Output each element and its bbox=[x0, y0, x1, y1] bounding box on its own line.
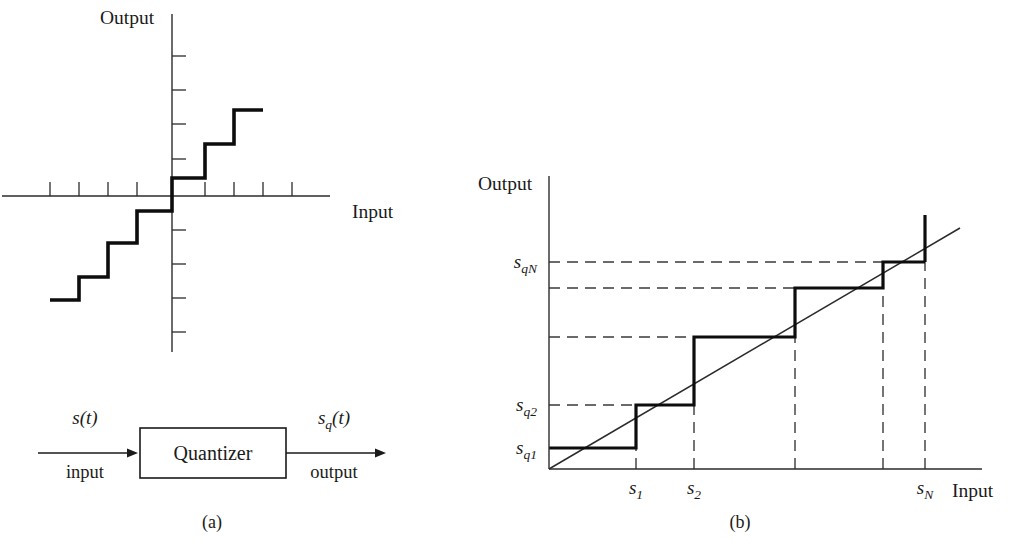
input-arrowhead-icon bbox=[127, 449, 138, 458]
panel-a-y-axis-label: Output bbox=[100, 7, 155, 28]
input-signal-base: s bbox=[72, 407, 79, 428]
panel-b-y-label-0-base: s bbox=[516, 437, 523, 458]
panel-a-y-ticks bbox=[172, 56, 186, 332]
panel-b-y-label-0-subscript: q1 bbox=[524, 447, 538, 462]
panel-b-identity-line bbox=[549, 228, 960, 469]
input-signal-rest: (t) bbox=[80, 407, 98, 429]
panel-b-y-tick-labels: sq1sq2sqN bbox=[514, 251, 538, 462]
panel-b-horizontal-dashed-lines bbox=[549, 262, 925, 405]
output-signal-label: sq(t) bbox=[318, 407, 350, 432]
figure-root: Output Input Quantizer s(t) input sq(t) … bbox=[0, 0, 1027, 547]
panel-b-x-label-0-subscript: 1 bbox=[636, 487, 643, 502]
panel-b-y-label-0: sq1 bbox=[516, 437, 537, 462]
panel-b-y-label-1: sq2 bbox=[516, 394, 537, 419]
panel-b-chart: sq1sq2sqN s1s2sN Output Input bbox=[478, 173, 994, 502]
panel-a-staircase bbox=[50, 110, 263, 300]
panel-b-x-tick-labels: s1s2sN bbox=[629, 477, 934, 502]
panel-a-caption: (a) bbox=[202, 512, 222, 533]
output-arrowhead-icon bbox=[375, 449, 386, 458]
panel-b-caption: (b) bbox=[730, 512, 751, 533]
panel-b-x-label-2-subscript: N bbox=[923, 487, 934, 502]
panel-b-vertical-dashed-lines bbox=[636, 262, 925, 469]
panel-b-x-label-1: s2 bbox=[687, 477, 701, 502]
panel-b-staircase bbox=[549, 262, 925, 448]
panel-a-x-axis-label: Input bbox=[352, 201, 394, 222]
panel-b-y-label-1-subscript: q2 bbox=[524, 404, 538, 419]
panel-b-x-label-1-subscript: 2 bbox=[694, 487, 701, 502]
panel-a-block-diagram: Quantizer s(t) input sq(t) output bbox=[38, 407, 386, 482]
panel-b-x-label-2: sN bbox=[917, 477, 934, 502]
quantizer-figure-svg: Output Input Quantizer s(t) input sq(t) … bbox=[0, 0, 1027, 547]
panel-b-y-label-2-base: s bbox=[514, 251, 521, 272]
panel-b-y-label-2-subscript: qN bbox=[521, 261, 538, 276]
output-signal-base: s bbox=[318, 407, 325, 428]
panel-b-x-label-0: s1 bbox=[629, 477, 643, 502]
panel-b-x-axis-label: Input bbox=[952, 480, 994, 501]
quantizer-block-label: Quantizer bbox=[174, 442, 253, 464]
panel-a-chart: Output Input bbox=[2, 7, 394, 352]
input-signal-label: s(t) bbox=[72, 407, 97, 429]
output-caption: output bbox=[310, 462, 358, 482]
panel-b-x-label-1-base: s bbox=[687, 477, 694, 498]
output-signal-rest: (t) bbox=[332, 407, 350, 429]
panel-b-y-label-1-base: s bbox=[516, 394, 523, 415]
panel-b-x-label-2-base: s bbox=[917, 477, 924, 498]
panel-b-x-label-0-base: s bbox=[629, 477, 636, 498]
panel-b-y-axis-label: Output bbox=[478, 173, 533, 194]
panel-b-y-label-2: sqN bbox=[514, 251, 538, 276]
input-caption: input bbox=[66, 462, 105, 482]
